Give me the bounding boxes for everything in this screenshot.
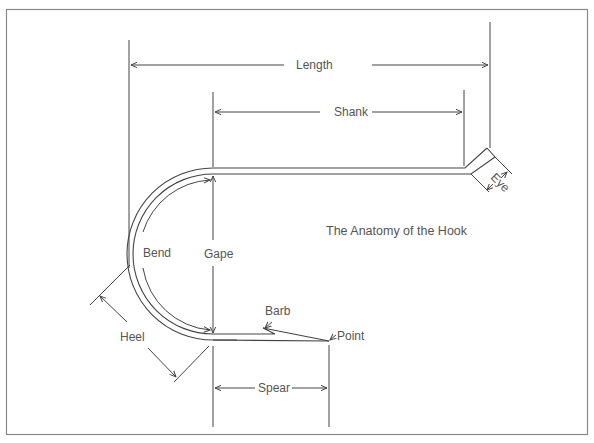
label-gape: Gape [204,247,234,261]
label-length: Length [296,58,333,72]
diagram-title: The Anatomy of the Hook [326,224,468,238]
diagram-frame [7,10,588,435]
label-spear: Spear [258,381,290,395]
barb-pointer [265,322,272,328]
heel-dimension [90,265,209,382]
shank-dimension [213,90,464,167]
label-bend: Bend [143,246,171,260]
hook-anatomy-diagram: Length Shank Eye Bend Gape Barb Point He… [0,0,594,443]
label-shank: Shank [334,105,369,119]
hook-body [127,148,495,341]
label-eye: Eye [488,170,513,195]
label-heel: Heel [120,330,145,344]
label-barb: Barb [265,304,291,318]
point-pointer [330,335,336,340]
label-point: Point [337,329,365,343]
